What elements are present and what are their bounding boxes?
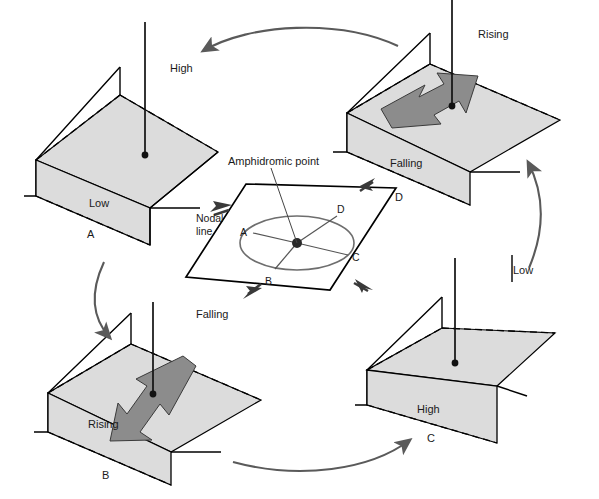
panel-C-near-label: High [417,403,440,415]
panel-B [34,302,261,485]
panel-B-near-label: Rising [88,418,119,430]
panel-B-nodal-point [150,391,157,398]
panel-D-near-label: Falling [390,157,422,169]
ellipse-label-C: C [352,251,360,263]
center-panel-plane [186,184,396,290]
center-panel [186,168,396,299]
panel-D-far-label: Rising [478,28,509,40]
ellipse-label-D: D [337,203,345,215]
panel-A [24,22,218,245]
pointer-arrow-to-B [243,286,262,299]
ellipse-label-B: B [265,275,272,287]
cycle-arrow-A-to-B [95,262,110,338]
panel-C-letter: C [427,432,435,444]
panel-D-letter: D [395,191,403,203]
panel-C [355,255,555,443]
panel-A-letter: A [87,228,94,240]
cycle-arrow-C-to-D [528,162,541,268]
panel-A-nodal-point [142,152,149,159]
ellipse-label-A: A [240,226,247,238]
panel-A-far-label: High [170,62,193,74]
panel-C-far-label: Low [513,264,533,276]
panel-C-nodal-point [452,360,459,367]
cycle-arrow-D-to-A [203,28,398,51]
nodal-line-label-line2: line [196,225,212,237]
figure-canvas: High Low A Rising Falling D Falling Risi… [0,0,599,499]
panel-D-nodal-point [449,103,456,110]
amphidromic-point-label: Amphidromic point [228,155,319,167]
cycle-arrow-B-to-C [233,440,410,471]
panel-B-far-label: Falling [196,308,228,320]
panel-B-letter: B [102,469,109,481]
panel-A-near-label: Low [89,197,109,209]
nodal-line-label-line1: Nodal [196,212,223,224]
panel-D [333,0,560,205]
